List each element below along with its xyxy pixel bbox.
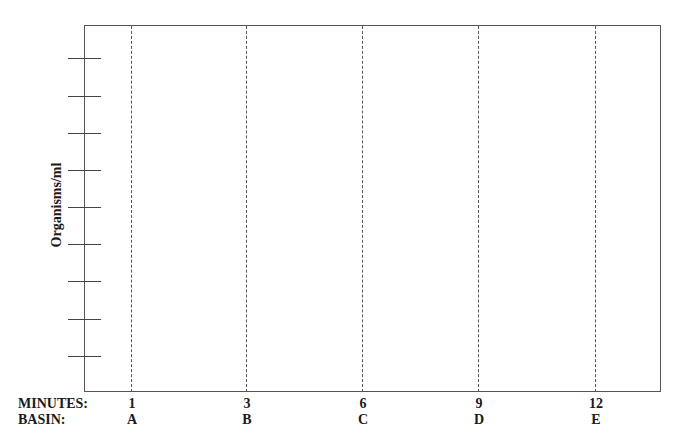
minute-tick-label: 6 (360, 396, 367, 412)
y-tick (68, 244, 101, 245)
basin-tick-label: A (127, 412, 137, 428)
chart: Organisms/ml MINUTES: BASIN: 1 3 6 9 12 … (0, 0, 682, 448)
y-axis-label: Organisms/ml (49, 163, 65, 248)
y-tick (68, 96, 101, 97)
minute-tick-label: 3 (244, 396, 251, 412)
gridline-minute-6 (362, 26, 363, 392)
y-tick (68, 133, 101, 134)
gridline-minute-3 (246, 26, 247, 392)
y-tick (68, 170, 101, 171)
gridline-minute-1 (131, 26, 132, 392)
minute-tick-label: 1 (129, 396, 136, 412)
y-tick (68, 319, 101, 320)
basin-tick-label: D (474, 412, 484, 428)
minutes-row-label: MINUTES: (18, 396, 88, 412)
plot-frame (84, 25, 661, 392)
y-tick (68, 356, 101, 357)
gridline-minute-12 (595, 26, 596, 392)
basin-tick-label: B (242, 412, 251, 428)
basin-tick-label: C (358, 412, 368, 428)
basin-row-label: BASIN: (18, 412, 65, 428)
y-tick (68, 58, 101, 59)
y-tick (68, 207, 101, 208)
minute-tick-label: 9 (476, 396, 483, 412)
basin-tick-label: E (591, 412, 600, 428)
gridline-minute-9 (478, 26, 479, 392)
y-tick (68, 281, 101, 282)
minute-tick-label: 12 (589, 396, 603, 412)
